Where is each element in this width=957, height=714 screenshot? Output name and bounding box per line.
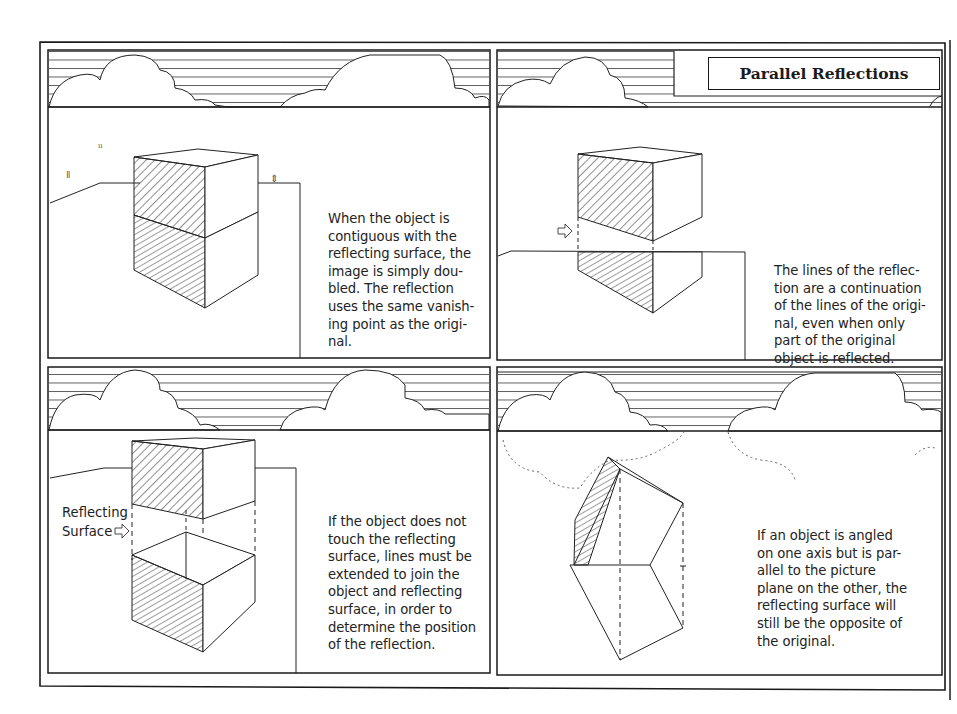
page-title: Parallel Reflections: [708, 57, 940, 90]
panel-caption-top-left: When the object is contiguous with the r…: [328, 210, 474, 351]
panel-caption-bottom-right: If an object is angled on one axis but i…: [757, 527, 907, 650]
svg-text:ıı: ıı: [98, 142, 103, 150]
illustration-page: ǁ ıı ⇕: [0, 0, 957, 714]
svg-text:⇕: ⇕: [270, 173, 278, 184]
panel-caption-top-right: The lines of the reflec- tion are a cont…: [774, 262, 926, 368]
svg-text:ǁ: ǁ: [66, 170, 70, 180]
panel-caption-bottom-left: If the object does not touch the reflect…: [328, 513, 476, 654]
reflecting-surface-label: Reflecting Surface: [62, 503, 128, 541]
